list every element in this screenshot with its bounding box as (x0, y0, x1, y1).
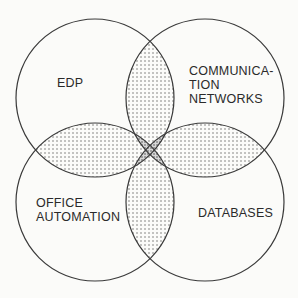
label-communication-networks: COMMUNICA- TION NETWORKS (189, 64, 274, 106)
label-office-automation: OFFICE AUTOMATION (36, 196, 120, 224)
label-line: NETWORKS (189, 92, 274, 106)
label-line: EDP (57, 76, 83, 90)
label-databases: DATABASES (198, 206, 273, 220)
label-line: OFFICE (36, 196, 120, 210)
label-edp: EDP (57, 76, 83, 90)
label-line: AUTOMATION (36, 210, 120, 224)
label-line: DATABASES (198, 206, 273, 220)
label-line: COMMUNICA- (189, 64, 274, 78)
label-line: TION (189, 78, 274, 92)
venn-diagram (0, 0, 298, 298)
